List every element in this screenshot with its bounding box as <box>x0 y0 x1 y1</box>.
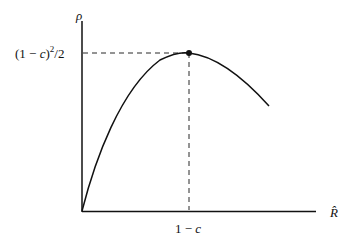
rho-curve <box>82 53 269 211</box>
peak-x-label: 1 − c <box>175 221 201 236</box>
y-axis-label: ρ <box>75 8 82 23</box>
peak-y-label: (1 − c)2/2 <box>15 44 64 61</box>
diagram-canvas: ρ R̂ (1 − c)2/2 1 − c <box>0 0 348 241</box>
x-axis-label: R̂ <box>329 205 338 220</box>
peak-point <box>186 50 192 56</box>
